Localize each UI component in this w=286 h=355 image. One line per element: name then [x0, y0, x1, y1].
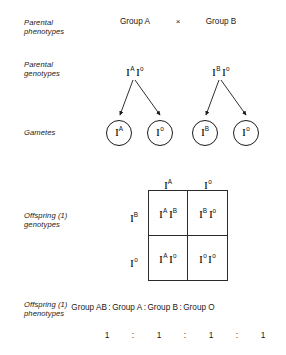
phenotype-group-o: Group O: [183, 303, 214, 312]
allele-I-o: Io: [169, 254, 177, 265]
phenotype-group-a: Group A: [112, 303, 142, 312]
offspring-phenotype-ratio: 1 : 1 : 1 : 1: [100, 330, 270, 340]
phenotype-separator: :: [108, 303, 110, 312]
gamete-circle-1: IA: [106, 120, 132, 146]
parental-genotype-right: IBIo: [190, 62, 252, 80]
row-label-offspring-genotypes: Offspring (1) genotypes: [24, 211, 100, 230]
ratio-separator: :: [233, 330, 241, 340]
allele-I-o: Io: [136, 67, 144, 78]
offspring-phenotype-groups: Group AB:Group A:Group B:Group O: [0, 303, 286, 312]
ratio-separator: :: [129, 330, 137, 340]
gamete-circle-2: Io: [147, 120, 173, 146]
row-label-gametes: Gametes: [24, 128, 96, 137]
gamete-circle-4: Io: [233, 120, 259, 146]
row-label-parental-phenotypes: Parental phenotypes: [24, 18, 96, 37]
parental-phenotype-left: Group A: [104, 17, 166, 26]
cross-symbol: ×: [170, 17, 186, 26]
allele-I-o: Io: [242, 127, 250, 138]
allele-I-B: IB: [212, 67, 220, 78]
allele-I-o: Io: [156, 127, 164, 138]
punnett-row-header-2: Io: [124, 253, 144, 271]
allele-I-A: IA: [115, 127, 123, 138]
phenotype-group-b: Group B: [147, 303, 178, 312]
allele-I-o: Io: [208, 254, 216, 265]
allele-I-B: IB: [169, 209, 177, 220]
allele-I-A: IA: [159, 254, 167, 265]
ratio-value-3: 1: [204, 330, 218, 340]
ratio-value-4: 1: [256, 330, 270, 340]
ratio-value-2: 1: [152, 330, 166, 340]
allele-I-A: IA: [159, 209, 167, 220]
punnett-cell-row1-col1: IAIB: [149, 191, 188, 236]
parental-phenotype-right: Group B: [190, 17, 252, 26]
allele-I-o: Io: [222, 67, 230, 78]
punnett-cell-row1-col2: IBIo: [188, 191, 227, 236]
genotype-pair: IAIo: [126, 62, 143, 79]
punnett-cell-row2-col2: IoIo: [188, 236, 227, 281]
allele-I-o: Io: [209, 209, 217, 220]
phenotype-separator: :: [179, 303, 181, 312]
allele-I-B: IB: [201, 127, 209, 138]
parental-genotype-left: IAIo: [104, 62, 166, 80]
allele-I-B: IB: [130, 213, 138, 224]
allele-I-o: Io: [130, 258, 138, 269]
genotype-pair: IBIo: [212, 62, 229, 79]
ratio-separator: :: [181, 330, 189, 340]
row-label-parental-genotypes: Parental genotypes: [24, 60, 96, 79]
punnett-grid: IAIB IBIo IAIo IoIo: [148, 190, 228, 281]
punnett-square-diagram: Parental phenotypes Parental genotypes G…: [0, 0, 286, 355]
ratio-value-1: 1: [100, 330, 114, 340]
allele-I-A: IA: [126, 67, 134, 78]
allele-I-B: IB: [199, 209, 207, 220]
punnett-row-header-1: IB: [124, 208, 144, 226]
punnett-cell-row2-col1: IAIo: [149, 236, 188, 281]
gamete-circle-3: IB: [192, 120, 218, 146]
phenotype-group-ab: Group AB: [71, 303, 107, 312]
phenotype-separator: :: [144, 303, 146, 312]
allele-I-o: Io: [199, 254, 207, 265]
